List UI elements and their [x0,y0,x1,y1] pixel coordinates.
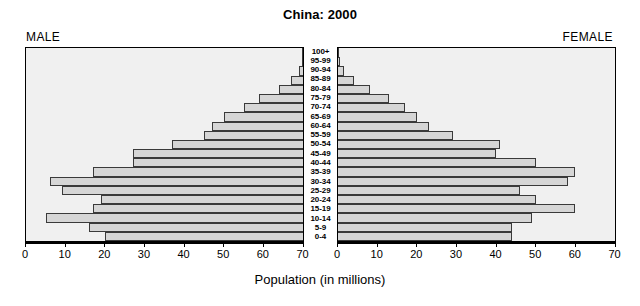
age-group-label: 45-49 [304,149,337,158]
bar-female-45-49 [338,149,496,158]
bar-female-10-14 [338,213,532,222]
female-bar-group [338,48,615,241]
bar-row [338,76,615,85]
bar-female-70-74 [338,103,405,112]
age-group-label: 85-89 [304,75,337,84]
age-group-label: 70-74 [304,103,337,112]
age-group-label: 75-79 [304,93,337,102]
bar-male-20-24 [101,195,303,204]
axis-tick-label: 70 [296,248,308,260]
bar-row [338,66,615,75]
bar-female-15-19 [338,204,575,213]
axis-tick-label: 30 [450,248,462,260]
age-group-label: 15-19 [304,205,337,214]
bar-row [338,186,615,195]
bar-row [26,94,303,103]
age-group-label: 5-9 [304,223,337,232]
age-group-label: 100+ [304,47,337,56]
age-group-label: 35-39 [304,168,337,177]
age-group-label: 50-54 [304,140,337,149]
bar-female-55-59 [338,131,453,140]
bar-male-5-9 [89,223,303,232]
male-x-axis: 706050403020100 [25,242,304,264]
axis-tick [184,242,185,247]
axis-tick-label: 60 [569,248,581,260]
bar-male-30-34 [50,177,303,186]
age-group-label: 30-34 [304,177,337,186]
bar-row [26,158,303,167]
bar-female-0-4 [338,232,512,241]
bar-female-25-29 [338,186,520,195]
bar-female-5-9 [338,223,512,232]
bar-male-10-14 [46,213,303,222]
bar-row [26,131,303,140]
bar-row [338,158,615,167]
axis-tick [303,242,304,247]
bar-female-85-89 [338,76,354,85]
bar-female-30-34 [338,177,568,186]
bar-male-55-59 [204,131,303,140]
bar-row [338,223,615,232]
bar-row [26,140,303,149]
bar-male-45-49 [133,149,303,158]
axis-tick-label: 10 [371,248,383,260]
male-panel-label: MALE [26,30,60,44]
axis-tick-label: 50 [529,248,541,260]
axis-tick-label: 40 [489,248,501,260]
bar-row [338,131,615,140]
bar-male-50-54 [172,140,303,149]
bar-row [26,112,303,121]
bar-row [338,122,615,131]
axis-tick-label: 30 [138,248,150,260]
bar-row [338,85,615,94]
female-panel-label: FEMALE [563,30,613,44]
male-plot-panel [25,47,304,242]
bar-row [26,232,303,241]
bar-female-80-84 [338,85,370,94]
axis-tick [535,242,536,247]
age-group-label: 95-99 [304,56,337,65]
bar-row [26,177,303,186]
bar-male-35-39 [93,167,303,176]
bar-female-35-39 [338,167,575,176]
bar-row [338,94,615,103]
bar-female-60-64 [338,122,429,131]
x-axis-title: Population (in millions) [0,272,640,287]
age-group-label: 20-24 [304,196,337,205]
male-bar-group [26,48,303,241]
bar-male-80-84 [279,85,303,94]
bar-male-0-4 [105,232,303,241]
bar-row [338,213,615,222]
bar-row [338,48,615,57]
axis-tick [25,242,26,247]
axis-tick [223,242,224,247]
bar-row [26,103,303,112]
bar-row [338,177,615,186]
bar-female-65-69 [338,112,417,121]
bar-male-15-19 [93,204,303,213]
bar-male-95-99 [302,57,303,66]
bar-row [338,167,615,176]
bar-row [26,149,303,158]
bar-male-85-89 [291,76,303,85]
bar-male-90-94 [299,66,303,75]
age-group-label: 40-44 [304,158,337,167]
bar-row [26,167,303,176]
bar-row [26,85,303,94]
bar-male-75-79 [259,94,303,103]
age-group-label: 0-4 [304,233,337,242]
bar-male-60-64 [212,122,303,131]
bar-female-40-44 [338,158,536,167]
axis-tick [337,242,338,247]
bar-row [26,223,303,232]
bar-male-100plus [302,48,303,57]
bar-female-95-99 [338,57,340,66]
age-group-label: 90-94 [304,66,337,75]
axis-tick [496,242,497,247]
axis-tick [456,242,457,247]
axis-tick [377,242,378,247]
bar-female-100plus [338,48,339,57]
age-group-label: 80-84 [304,84,337,93]
axis-tick [575,242,576,247]
bar-row [338,103,615,112]
